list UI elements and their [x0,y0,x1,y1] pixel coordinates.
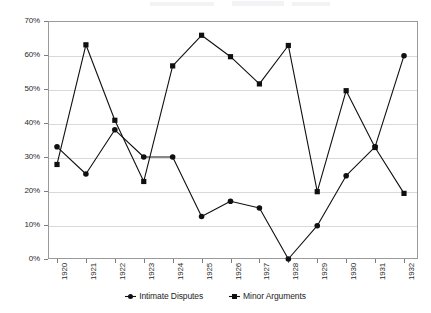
y-axis-tick [44,21,48,22]
y-axis-tick-label: 40% [25,119,40,127]
y-axis-tick-label: 10% [25,221,40,229]
y-axis-tick-label: 50% [25,85,40,93]
x-axis-tick-label: 1931 [379,263,387,280]
y-axis-tick [44,259,48,260]
x-axis-tick-label: 1925 [206,263,214,280]
chart-legend: Intimate Disputes Minor Arguments [0,288,431,304]
x-axis-tick [317,259,318,263]
y-axis: 0%10%20%30%40%50%60%70% [0,0,46,313]
y-axis-tick-label: 0% [29,255,40,263]
x-axis-tick-label: 1921 [90,263,98,280]
y-axis-tick [44,157,48,158]
x-axis-tick [115,259,116,263]
legend-square-marker [229,292,240,301]
x-axis-tick [202,259,203,263]
gridline [49,192,417,193]
x-axis-tick-label: 1929 [321,263,329,280]
x-axis-tick [173,259,174,263]
legend-label: Intimate Disputes [139,292,203,301]
x-axis-tick [375,259,376,263]
x-axis-tick [288,259,289,263]
y-axis-tick [44,123,48,124]
gridline [49,90,417,91]
legend-label: Minor Arguments [243,292,306,301]
scan-artifact [232,1,284,6]
y-axis-tick-label: 60% [25,51,40,59]
gridline [49,158,417,159]
y-axis-tick [44,225,48,226]
x-axis-tick-label: 1928 [292,263,300,280]
x-axis-tick [259,259,260,263]
y-axis-tick-label: 70% [25,17,40,25]
y-axis-tick [44,55,48,56]
x-axis-tick-label: 1922 [119,263,127,280]
y-axis-tick-label: 30% [25,153,40,161]
y-axis-tick-label: 20% [25,187,40,195]
plot-area [48,21,418,259]
scan-artifact [150,2,214,6]
x-axis-tick-label: 1926 [235,263,243,280]
x-axis-tick [57,259,58,263]
x-axis-tick-label: 1927 [263,263,271,280]
gridline [49,124,417,125]
x-axis-tick-label: 1920 [61,263,69,280]
x-axis-tick [231,259,232,263]
x-axis-tick-label: 1932 [408,263,416,280]
x-axis-tick-label: 1930 [350,263,358,280]
x-axis-tick [144,259,145,263]
legend-item-intimate-disputes[interactable]: Intimate Disputes [125,292,203,301]
scan-artifact [292,2,330,6]
x-axis-tick [404,259,405,263]
y-axis-tick [44,191,48,192]
y-axis-tick [44,89,48,90]
x-axis-tick [86,259,87,263]
gridline [49,56,417,57]
legend-item-minor-arguments[interactable]: Minor Arguments [229,292,306,301]
x-axis-tick [346,259,347,263]
legend-circle-marker [125,292,136,301]
gridline [49,226,417,227]
line-chart: 0%10%20%30%40%50%60%70% 1920192119221923… [0,0,431,313]
x-axis-tick-label: 1924 [177,263,185,280]
x-axis-tick-label: 1923 [148,263,156,280]
